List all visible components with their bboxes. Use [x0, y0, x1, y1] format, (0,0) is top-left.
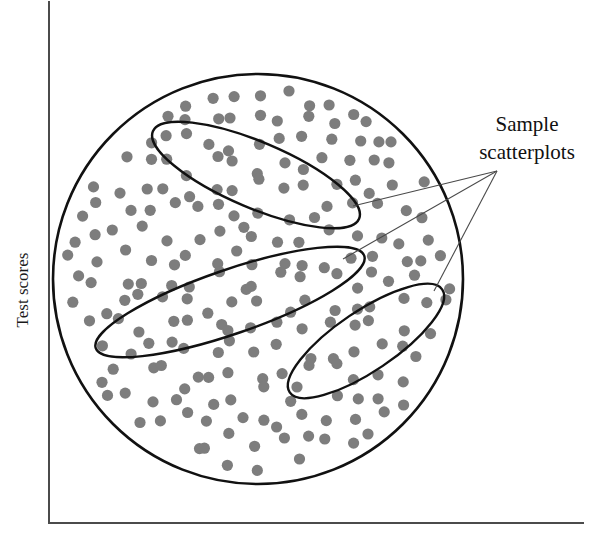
data-dot — [156, 360, 167, 371]
data-dot — [294, 453, 305, 464]
data-dot — [222, 367, 233, 378]
data-dot — [84, 315, 95, 326]
data-dot — [296, 409, 307, 420]
data-dot — [321, 201, 332, 212]
data-dot — [352, 283, 363, 294]
data-dot — [298, 164, 309, 175]
data-dot — [203, 372, 214, 383]
data-dot — [255, 90, 266, 101]
data-dot — [222, 460, 233, 471]
data-dot — [326, 134, 337, 145]
data-dot — [125, 205, 136, 216]
data-dot — [226, 296, 237, 307]
data-dot — [366, 266, 377, 277]
data-dot — [271, 421, 282, 432]
data-dot — [171, 394, 182, 405]
data-dot — [387, 179, 398, 190]
data-dot — [161, 130, 172, 141]
data-dot — [90, 197, 101, 208]
data-dot — [227, 155, 238, 166]
data-dot — [179, 114, 190, 125]
data-dot — [114, 188, 125, 199]
data-dot — [180, 250, 191, 261]
data-dot — [181, 128, 192, 139]
data-dot — [223, 145, 234, 156]
data-dot — [271, 339, 282, 350]
data-dot — [303, 431, 314, 442]
data-dot — [369, 154, 380, 165]
data-dot — [132, 289, 143, 300]
data-dot — [193, 372, 204, 383]
data-dot — [162, 111, 173, 122]
data-dot — [155, 415, 166, 426]
data-dot — [213, 199, 224, 210]
data-dot — [319, 262, 330, 273]
data-dot — [147, 396, 158, 407]
data-dot — [353, 393, 364, 404]
data-dot — [348, 109, 359, 120]
data-dot — [385, 136, 396, 147]
data-dot — [393, 238, 404, 249]
data-dot — [316, 152, 327, 163]
data-dot — [258, 415, 269, 426]
data-dot — [199, 443, 210, 454]
data-dot — [291, 381, 302, 392]
data-dot — [86, 277, 97, 288]
data-dot — [258, 381, 269, 392]
data-dot — [208, 93, 219, 104]
data-dot — [101, 308, 112, 319]
data-dot — [143, 338, 154, 349]
data-dot — [136, 278, 147, 289]
data-dot — [88, 181, 99, 192]
data-dot — [350, 175, 361, 186]
data-dot — [137, 221, 148, 232]
data-dot — [182, 407, 193, 418]
data-dot — [319, 433, 330, 444]
data-dot — [157, 183, 168, 194]
data-dot — [133, 326, 144, 337]
data-dot — [142, 183, 153, 194]
data-dot — [275, 267, 286, 278]
data-dot — [91, 256, 102, 267]
data-dot — [67, 297, 78, 308]
callout-line-1: Sample — [496, 112, 559, 136]
data-dot — [379, 406, 390, 417]
data-dot — [419, 176, 430, 187]
data-dot — [227, 185, 238, 196]
data-dot — [108, 364, 119, 375]
data-dot — [224, 112, 235, 123]
data-dot — [272, 237, 283, 248]
data-dot — [225, 394, 236, 405]
data-dot — [278, 183, 289, 194]
callout-line-2: scatterplots — [479, 140, 575, 164]
data-dot — [213, 347, 224, 358]
data-dot — [383, 157, 394, 168]
data-dot — [352, 230, 363, 241]
data-dot — [182, 293, 193, 304]
data-dot — [161, 235, 172, 246]
data-dot — [421, 297, 432, 308]
data-dot — [246, 281, 257, 292]
data-dot — [96, 377, 107, 388]
data-dot — [169, 259, 180, 270]
data-dot — [331, 268, 342, 279]
data-dot — [202, 308, 213, 319]
data-dot — [249, 441, 260, 452]
data-dot — [377, 338, 388, 349]
data-dot — [180, 101, 191, 112]
data-dot — [348, 346, 359, 357]
data-dot — [213, 113, 224, 124]
y-axis-label: Test scores — [13, 253, 32, 328]
data-dot — [331, 358, 342, 369]
data-dot — [70, 237, 81, 248]
data-dot — [303, 111, 314, 122]
data-dot — [134, 417, 145, 428]
scatterplot-figure: Test scores Sample scatterplots — [0, 0, 592, 547]
figure-canvas: Test scores Sample scatterplots — [0, 0, 592, 547]
data-dot — [120, 244, 131, 255]
data-dot — [248, 346, 259, 357]
data-dot — [304, 100, 315, 111]
data-dot — [277, 368, 288, 379]
data-dot — [295, 271, 306, 282]
data-dot — [228, 210, 239, 221]
